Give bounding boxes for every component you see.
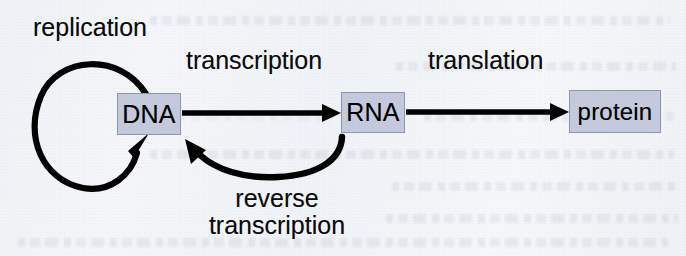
label-replication: replication <box>33 14 147 41</box>
label-reverse-transcription-line1: reverse <box>181 185 373 212</box>
edge-reverse-transcription <box>185 137 342 177</box>
label-transcription: transcription <box>186 47 322 74</box>
label-reverse-transcription: reverse transcription <box>181 185 373 239</box>
node-protein-label: protein <box>578 100 653 124</box>
edge-transcription <box>182 104 341 122</box>
label-translation: translation <box>428 47 543 74</box>
node-dna-label: DNA <box>122 102 175 127</box>
label-reverse-transcription-line2: transcription <box>181 212 373 239</box>
node-rna-label: RNA <box>346 100 399 125</box>
central-dogma-diagram: DNA RNA protein replication transcriptio… <box>0 0 686 256</box>
node-dna: DNA <box>117 93 181 135</box>
edge-translation <box>406 103 569 121</box>
node-rna: RNA <box>341 92 405 133</box>
node-protein: protein <box>569 90 661 133</box>
